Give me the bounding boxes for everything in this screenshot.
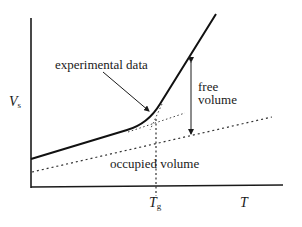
free-volume-label-line2: volume [198, 93, 237, 106]
rubbery-extrapolation-line [150, 104, 162, 130]
experimental-data-label: experimental data [55, 58, 148, 71]
y-axis-label: Vs [9, 95, 21, 112]
free-volume-diagram: Vs experimental data free volume occupie… [0, 0, 302, 227]
x-axis [31, 185, 283, 187]
tg-tick-label: Tg [149, 196, 161, 213]
experimental-data-arrow [103, 72, 149, 111]
diagram-graphics [0, 0, 302, 227]
experimental-curve [31, 14, 216, 159]
occupied-volume-label: occupied volume [110, 157, 199, 170]
x-axis-label: T [240, 196, 248, 209]
